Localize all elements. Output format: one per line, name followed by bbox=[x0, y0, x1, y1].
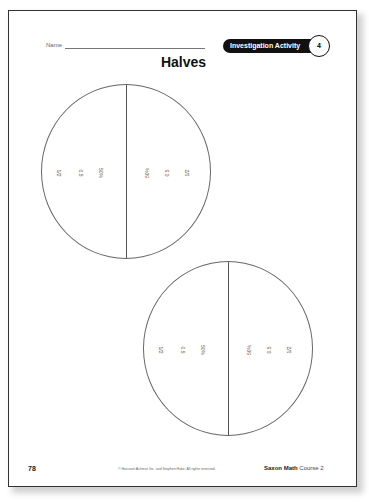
fraction-label: 1/2 bbox=[286, 347, 292, 354]
copyright-text: © Harcourt Achieve Inc. and Stephen Hake… bbox=[118, 467, 216, 471]
percent-label: 50% bbox=[246, 345, 252, 355]
course-name: Course 2 bbox=[299, 465, 323, 471]
course-brand: Saxon Math Course 2 bbox=[264, 465, 324, 471]
percent-label: 50% bbox=[200, 345, 206, 355]
decimal-label: 0.5 bbox=[78, 170, 84, 177]
worksheet-page: Name Investigation Activity 4 Halves 1/2… bbox=[8, 10, 357, 487]
name-field-line bbox=[65, 48, 205, 49]
page-number: 78 bbox=[28, 465, 36, 472]
fraction-label: 1/2 bbox=[184, 170, 190, 177]
percent-label: 50% bbox=[144, 168, 150, 178]
halves-circle-1: 1/2 0.5 50% 50% 0.5 1/2 bbox=[41, 84, 211, 259]
decimal-label: 0.5 bbox=[164, 170, 170, 177]
circle-divider bbox=[126, 85, 127, 258]
fraction-label: 1/2 bbox=[56, 170, 62, 177]
page-title: Halves bbox=[9, 54, 358, 70]
halves-circle-2: 1/2 0.5 50% 50% 0.5 1/2 bbox=[143, 261, 313, 436]
name-label: Name bbox=[46, 42, 62, 48]
circle-divider bbox=[228, 262, 229, 435]
brand-name: Saxon Math bbox=[264, 465, 298, 471]
decimal-label: 0.5 bbox=[180, 347, 186, 354]
percent-label: 50% bbox=[98, 168, 104, 178]
decimal-label: 0.5 bbox=[266, 347, 272, 354]
fraction-label: 1/2 bbox=[158, 347, 164, 354]
